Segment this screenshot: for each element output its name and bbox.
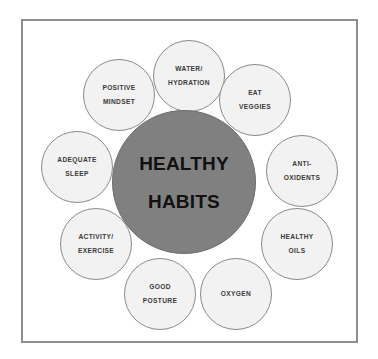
petal-positive-mindset: POSITIVEMINDSET (83, 59, 155, 131)
petal-label-line1: ANTI- (292, 161, 311, 168)
petal-label-line1: GOOD (149, 284, 171, 291)
petal-eat-veggies: EATVEGGIES (219, 64, 291, 136)
petal-label-line1: OXYGEN (221, 291, 251, 298)
petal-water-hydration: WATER/HYDRATION (153, 40, 225, 112)
petal-label-line2: VEGGIES (239, 104, 271, 111)
petal-label-line1: POSITIVE (102, 85, 135, 92)
petal-label-line2: MINDSET (103, 99, 135, 106)
center-hub-label-line1: HEALTHY (139, 154, 229, 173)
petal-label-line2: HYDRATION (168, 80, 210, 87)
petal-label-line2: POSTURE (143, 298, 177, 305)
petal-label-line1: ADEQUATE (57, 157, 96, 164)
petal-label-line1: HEALTHY (280, 234, 313, 241)
petal-anti-oxidents: ANTI-OXIDENTS (266, 135, 338, 207)
petal-label-line2: OXIDENTS (284, 175, 321, 182)
petal-good-posture: GOODPOSTURE (124, 258, 196, 330)
petal-label-line1: EAT (248, 90, 262, 97)
petal-label-line1: ACTIVITY/ (78, 234, 113, 241)
petal-label-line2: SLEEP (65, 171, 88, 178)
petal-label-line1: WATER/ (175, 66, 202, 73)
center-hub-healthy-habits: HEALTHY HABITS (112, 110, 256, 254)
petal-healthy-oils: HEALTHYOILS (261, 208, 333, 280)
healthy-habits-diagram: WATER/HYDRATIONEATVEGGIESANTI-OXIDENTSHE… (0, 0, 378, 359)
petal-oxygen: OXYGEN (200, 258, 272, 330)
petal-label-line2: OILS (289, 248, 306, 255)
petal-label-line2: EXERCISE (78, 248, 114, 255)
center-hub-label-line2: HABITS (148, 192, 220, 211)
petal-adequate-sleep: ADEQUATESLEEP (41, 131, 113, 203)
